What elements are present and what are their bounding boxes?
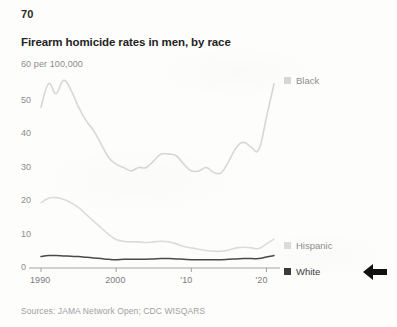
x-axis-tick-1990: 1990 xyxy=(30,275,50,285)
y-axis-tick-0: 0 xyxy=(21,262,26,272)
legend-item-black: Black xyxy=(284,75,319,86)
y-axis-tick-40: 40 xyxy=(21,128,31,138)
legend-label-hispanic: Hispanic xyxy=(296,240,332,251)
left-arrow-icon xyxy=(361,261,389,283)
x-axis-tick-2010: '10 xyxy=(180,275,192,285)
x-axis-tick-2000: 2000 xyxy=(105,275,125,285)
legend-swatch-white xyxy=(284,268,291,275)
legend-swatch-hispanic xyxy=(284,242,291,249)
y-axis-tick-30: 30 xyxy=(21,162,31,172)
y-axis-tick-20: 20 xyxy=(21,195,31,205)
chart-plot-area: 0102030405019902000'10'20 xyxy=(0,0,397,327)
x-axis-tick-2020: '20 xyxy=(255,275,267,285)
y-axis-tick-10: 10 xyxy=(21,229,31,239)
line-chart-svg xyxy=(0,0,397,327)
legend-label-black: Black xyxy=(296,75,319,86)
y-axis-tick-50: 50 xyxy=(21,95,31,105)
legend-item-hispanic: Hispanic xyxy=(284,240,332,251)
legend-item-white: White xyxy=(284,266,320,277)
page-canvas: 70 Firearm homicide rates in men, by rac… xyxy=(0,0,397,327)
legend-swatch-black xyxy=(284,77,291,84)
legend-label-white: White xyxy=(296,266,320,277)
source-note: Sources: JAMA Network Open; CDC WISQARS xyxy=(21,306,205,316)
